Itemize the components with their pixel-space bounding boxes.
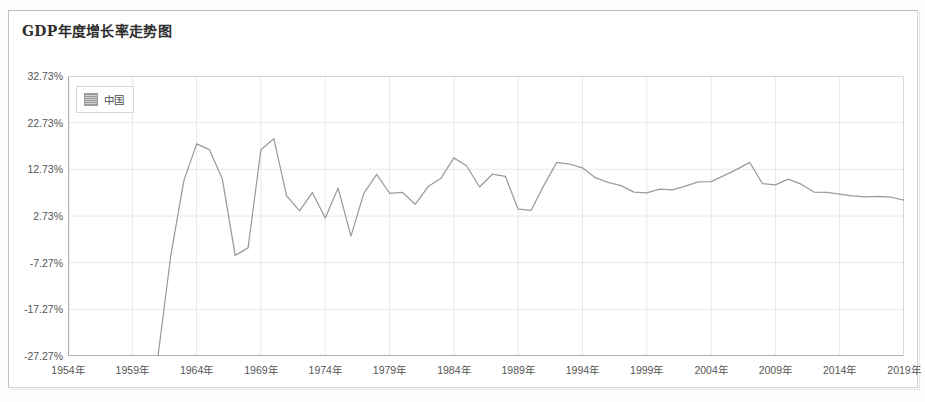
legend-label-china: 中国 xyxy=(104,92,124,107)
page-title: GDP年度增长率走势图 xyxy=(22,20,172,40)
line-chart-svg xyxy=(68,76,904,356)
gridlines xyxy=(68,76,904,356)
chart-legend: 中国 xyxy=(76,86,134,113)
chart-page: GDP年度增长率走势图 32.73%22.73%12.73%2.73%-7.27… xyxy=(0,0,925,402)
series-line-china xyxy=(158,139,904,356)
plot-area xyxy=(68,76,904,356)
legend-swatch-china xyxy=(84,93,98,106)
